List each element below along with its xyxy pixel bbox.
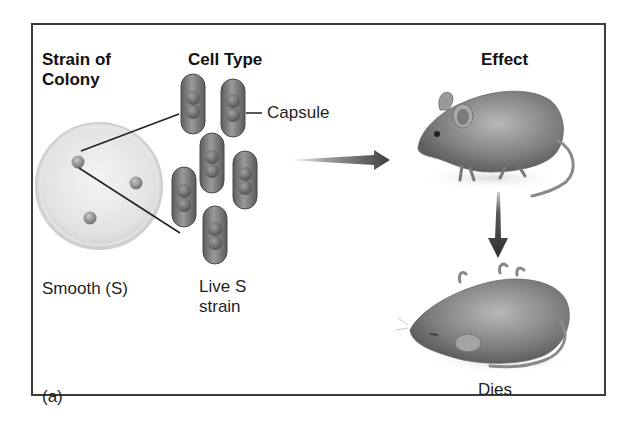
colony	[84, 212, 97, 225]
label-dies: Dies	[478, 380, 512, 400]
label-smooth-strain: Smooth (S)	[42, 279, 128, 299]
colony	[72, 156, 85, 169]
label-live-s-strain: Live S strain	[199, 277, 246, 317]
cell	[200, 133, 224, 193]
encapsulated-cells	[172, 74, 257, 264]
cell	[221, 79, 245, 137]
cell	[203, 206, 227, 264]
label-capsule: Capsule	[267, 103, 329, 123]
heading-strain-of-colony: Strain of Colony	[42, 50, 111, 90]
arrow-down-icon	[488, 192, 508, 258]
live-mouse	[415, 91, 573, 196]
cell	[172, 167, 196, 227]
panel-label: (a)	[42, 387, 63, 407]
heading-cell-type: Cell Type	[188, 50, 262, 70]
cell	[181, 74, 205, 134]
petri-dish	[36, 123, 162, 249]
arrow-right-icon	[288, 150, 390, 170]
heading-effect: Effect	[481, 50, 528, 70]
dead-mouse	[396, 264, 578, 372]
colony	[130, 177, 143, 190]
cell	[233, 151, 257, 209]
